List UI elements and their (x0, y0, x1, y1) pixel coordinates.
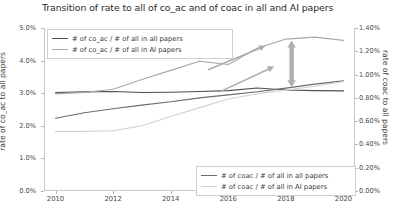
y-right-tick-mark (355, 51, 358, 52)
gap-arrow-double (287, 40, 295, 87)
y-left-tick-label: 3.0% (10, 89, 36, 97)
series-line-3 (56, 82, 344, 132)
x-tick-mark (171, 191, 172, 194)
legend-co-ac: # of co_ac / # of all in all papers# of … (47, 29, 233, 59)
y-left-tick-label: 0.0% (10, 187, 36, 195)
legend-item: # of co_ac / # of all in AI papers (52, 44, 227, 55)
y-left-tick-label: 4.0% (10, 57, 36, 65)
x-tick-label: 2014 (162, 195, 179, 203)
x-tick-mark (113, 191, 114, 194)
y-right-tick-label: 1.20% (359, 47, 389, 55)
x-tick-label: 2010 (47, 195, 64, 203)
legend-line-icon (52, 49, 68, 50)
y-left-tick-mark (41, 158, 44, 159)
y-right-tick-mark (355, 98, 358, 99)
y-right-tick-label: 0.00% (359, 187, 389, 195)
legend-item-label: # of coac / # of all in AI papers (221, 183, 327, 191)
y-left-tick-label: 1.0% (10, 154, 36, 162)
legend-item: # of coac / # of all in AI papers (201, 181, 350, 192)
x-tick-label: 2018 (277, 195, 294, 203)
legend-item-label: # of co_ac / # of all in AI papers (72, 46, 182, 54)
y-right-tick-label: 1.40% (359, 24, 389, 32)
legend-item-label: # of co_ac / # of all in all papers (72, 35, 183, 43)
y-left-tick-mark (41, 93, 44, 94)
legend-item: # of co_ac / # of all in all papers (52, 33, 227, 44)
series-line-2 (56, 81, 344, 118)
legend-coac: # of coac / # of all in all papers# of c… (196, 166, 356, 196)
y-right-tick-label: 0.60% (359, 117, 389, 125)
y-right-tick-label: 1.00% (359, 71, 389, 79)
y-left-tick-mark (41, 61, 44, 62)
chart-title: Transition of rate to all of co_ac and o… (42, 2, 362, 13)
y-right-tick-mark (355, 75, 358, 76)
x-tick-label: 2012 (104, 195, 121, 203)
y-left-tick-mark (41, 28, 44, 29)
y-right-tick-label: 0.40% (359, 140, 389, 148)
legend-line-icon (201, 175, 217, 176)
y-left-tick-label: 5.0% (10, 24, 36, 32)
x-tick-label: 2020 (335, 195, 352, 203)
x-tick-label: 2016 (220, 195, 237, 203)
legend-item: # of coac / # of all in all papers (201, 170, 350, 181)
y-right-tick-mark (355, 121, 358, 122)
legend-item-label: # of coac / # of all in all papers (221, 172, 328, 180)
legend-line-icon (52, 38, 68, 39)
y-right-tick-label: 0.20% (359, 164, 389, 172)
y-left-tick-mark (41, 126, 44, 127)
y-right-tick-mark (355, 144, 358, 145)
y-axis-left-label: rate of co_ac to all papers (0, 52, 7, 151)
x-tick-mark (56, 191, 57, 194)
chart-root: Transition of rate to all of co_ac and o… (0, 0, 399, 217)
legend-line-icon (201, 186, 217, 187)
y-left-tick-label: 2.0% (10, 122, 36, 130)
y-right-tick-label: 0.80% (359, 94, 389, 102)
y-right-tick-mark (355, 28, 358, 29)
y-left-tick-mark (41, 191, 44, 192)
